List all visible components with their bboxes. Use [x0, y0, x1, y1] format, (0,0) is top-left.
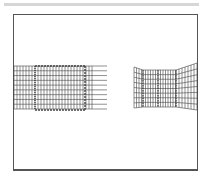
mesh-drawing — [0, 0, 209, 182]
